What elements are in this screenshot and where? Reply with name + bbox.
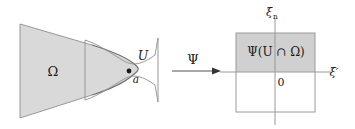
- xi-prime-axis-label: ξ′: [330, 65, 339, 79]
- u-label: U: [138, 48, 149, 63]
- psi-arrow-label: Ψ: [187, 52, 198, 67]
- xi-n-axis-label: ξ n: [266, 5, 278, 21]
- figure-canvas: Ω U a Ψ ξ n ξ′: [0, 0, 355, 129]
- point-a-label: a: [133, 73, 139, 85]
- image-set-label: Ψ(U ∩ Ω): [247, 45, 305, 59]
- domain-panel: Ω U a: [20, 24, 158, 118]
- omega-region-fill: [20, 24, 138, 118]
- point-a-marker: [127, 69, 132, 74]
- psi-map-arrow: Ψ: [172, 52, 221, 75]
- omega-label: Ω: [48, 64, 59, 79]
- xi-n-axis-label-base: ξ: [266, 5, 273, 19]
- origin-label: 0: [278, 76, 285, 89]
- psi-arrow-head: [212, 67, 221, 74]
- image-panel: ξ n ξ′ 0 Ψ(U ∩ Ω): [220, 5, 339, 125]
- xi-n-axis-label-subscript: n: [273, 12, 278, 21]
- figure-root: Ω U a Ψ ξ n ξ′: [0, 0, 355, 129]
